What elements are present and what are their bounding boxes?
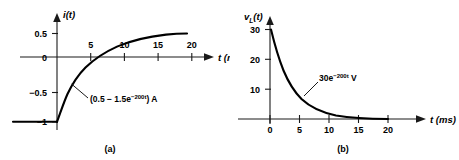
chart-a-annotation-exponent: −200t: [131, 94, 147, 100]
y-axis-arrowhead: [266, 16, 274, 25]
chart-b-xtick-label-2: 10: [324, 125, 334, 135]
chart-a-xtick-label-1: 10: [119, 40, 129, 50]
chart-b-annotation-tail: V: [349, 73, 357, 83]
chart-panel-a: 0.5 0 −0.5 −1 5 10 15 20 i(t) t (ms) (0.…: [0, 0, 230, 160]
chart-a-xtick-label-2: 15: [153, 40, 163, 50]
chart-b-caption: (b): [337, 144, 349, 154]
chart-panel-b: 30 20 10 0 5 10 15 20 vL(t) t (ms) 30e−2…: [230, 0, 459, 160]
chart-b-xtick-label-3: 15: [353, 125, 363, 135]
chart-a-x-axis-label-text: t (ms): [218, 52, 230, 63]
x-axis-arrowhead: [416, 115, 426, 123]
chart-b-y-axis-label: vL(t): [244, 11, 263, 24]
y-axis-arrowhead: [53, 13, 61, 22]
chart-b-annotation-leader: [304, 82, 318, 96]
chart-b-svg: 30 20 10 0 5 10 15 20 vL(t) t (ms) 30e−2…: [230, 0, 459, 160]
chart-a-annotation-base: (0.5 − 1.5e: [90, 94, 131, 104]
chart-a-annotation-tail: ) A: [146, 94, 157, 104]
chart-a-caption: (a): [105, 144, 116, 154]
chart-a-xtick-label-3: 20: [187, 40, 197, 50]
chart-a-ytick-label-0: 0.5: [34, 29, 47, 39]
chart-a-svg: 0.5 0 −0.5 −1 5 10 15 20 i(t) t (ms) (0.…: [0, 0, 230, 160]
chart-b-x-axis-label-text: t (ms): [430, 114, 456, 125]
chart-b-xtick-label-4: 20: [383, 125, 393, 135]
chart-b-annotation-exponent: −200t: [333, 73, 349, 79]
chart-b-ytick-label-1: 20: [250, 55, 260, 65]
chart-a-xtick-label-0: 5: [88, 40, 93, 50]
chart-b-xtick-label-1: 5: [297, 125, 302, 135]
chart-a-y-axis-label: i(t): [63, 9, 75, 20]
chart-a-annotation-leader: [72, 84, 89, 98]
chart-b-ytick-label-0: 30: [250, 25, 260, 35]
chart-b-y-axis-label-tail: (t): [253, 11, 263, 22]
chart-b-x-axis-label: t (ms): [430, 114, 456, 125]
chart-b-ytick-label-2: 10: [250, 85, 260, 95]
chart-a-x-axis: [20, 53, 214, 61]
chart-b-annotation: 30e−200t V: [319, 73, 357, 84]
chart-a-ytick-label-2: −0.5: [29, 88, 47, 98]
figure-container: 0.5 0 −0.5 −1 5 10 15 20 i(t) t (ms) (0.…: [0, 0, 459, 160]
chart-a-ytick-label-1: 0: [42, 53, 47, 63]
chart-b-xtick-label-0: 0: [267, 125, 272, 135]
chart-b-x-axis: [238, 115, 426, 123]
x-axis-arrowhead: [204, 53, 214, 61]
chart-a-x-axis-label: t (ms): [218, 52, 230, 63]
chart-a-ytick-label-3: −1: [37, 117, 47, 127]
chart-b-annotation-base: 30e: [319, 73, 333, 83]
chart-a-annotation: (0.5 − 1.5e−200t) A: [90, 94, 157, 105]
